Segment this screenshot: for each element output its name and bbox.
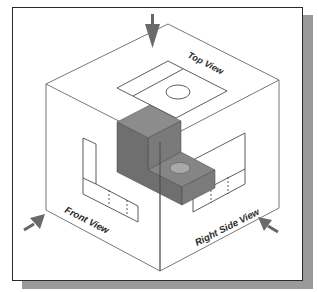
arrow-head-icon bbox=[145, 24, 160, 48]
arrow-shaft bbox=[268, 226, 278, 232]
glass-box-diagram: Top View Front View Right Side View bbox=[0, 0, 318, 292]
arrow-shaft bbox=[151, 14, 154, 24]
front-view-label: Front View bbox=[63, 204, 111, 236]
top-view-hole bbox=[166, 85, 190, 99]
l-bracket-solid bbox=[117, 105, 215, 205]
right-view-direction-arrow bbox=[258, 217, 278, 232]
front-view-direction-arrow bbox=[24, 214, 45, 230]
solid-hole bbox=[170, 163, 190, 174]
top-view-inner-line bbox=[133, 69, 183, 96]
glass-box-bottom-right-edge bbox=[160, 208, 279, 271]
arrow-head-icon bbox=[258, 217, 272, 231]
arrow-shaft bbox=[24, 224, 34, 230]
front-view-step-line bbox=[83, 178, 96, 184]
top-view-direction-arrow bbox=[145, 14, 160, 48]
right-side-view-label: Right Side View bbox=[193, 206, 262, 248]
glass-box-bottom-left-edge bbox=[46, 210, 160, 271]
